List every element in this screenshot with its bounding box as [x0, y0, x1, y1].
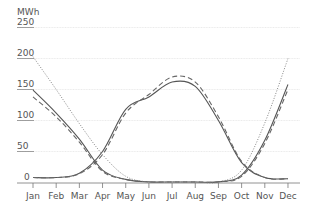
y-tick-label: 200 — [17, 48, 34, 58]
series-line-winter-dotted — [33, 57, 288, 183]
y-tick-label: 50 — [17, 141, 29, 151]
y-tick-label: 250 — [17, 17, 34, 27]
x-tick-label: Jan — [25, 191, 40, 201]
line-chart: MWh 050100150200250 JanFebMarAprMayJunJu… — [0, 0, 321, 218]
x-tick-label: Jul — [166, 191, 178, 201]
x-tick-label: Oct — [234, 191, 250, 201]
series-line-summer-dashed — [33, 76, 288, 179]
y-axis-unit-label: MWh — [17, 7, 39, 17]
y-tick-label: 100 — [17, 110, 34, 120]
x-tick-label: Feb — [48, 191, 64, 201]
x-tick-label: Mar — [71, 191, 88, 201]
x-tick-label: Apr — [95, 191, 111, 201]
x-axis-ticks: JanFebMarAprMayJunJulAugSepOctNovDec — [25, 183, 297, 201]
x-tick-label: Sep — [210, 191, 227, 201]
x-tick-label: Dec — [279, 191, 296, 201]
x-tick-label: Aug — [186, 191, 204, 201]
y-axis-ticks: 050100150200250 — [17, 17, 34, 182]
y-tick-label: 0 — [24, 172, 30, 182]
x-tick-label: Nov — [256, 191, 274, 201]
series-lines — [33, 57, 288, 183]
y-tick-label: 150 — [17, 79, 34, 89]
x-tick-label: Jun — [141, 191, 156, 201]
x-tick-label: May — [116, 191, 135, 201]
series-line-winter-dashed — [33, 90, 288, 183]
